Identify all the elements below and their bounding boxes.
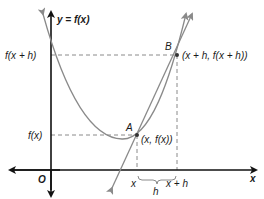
point-a-name: A — [125, 122, 133, 133]
origin-label: O — [38, 174, 46, 185]
h-label: h — [153, 186, 159, 197]
y-label-f-x-plus-h: f(x + h) — [5, 50, 36, 61]
point-b — [175, 53, 179, 57]
dashed-guides — [51, 55, 177, 170]
x-tick-x: x — [130, 178, 137, 189]
y-label-f-x: f(x) — [28, 130, 42, 141]
point-a-coords: (x, f(x)) — [141, 134, 173, 145]
x-axis-label: x — [249, 173, 256, 184]
point-a — [135, 133, 139, 137]
point-b-name: B — [165, 41, 172, 52]
function-curve — [43, 14, 186, 139]
point-b-coords: (x + h, f(x + h)) — [182, 50, 248, 61]
secant-line — [112, 14, 192, 188]
y-axis-label: y = f(x) — [56, 14, 90, 25]
x-tick-x-plus-h: x + h — [165, 178, 188, 189]
derivative-secant-diagram: y = f(x) f(x + h) f(x) O x A (x, f(x)) B… — [0, 0, 264, 199]
